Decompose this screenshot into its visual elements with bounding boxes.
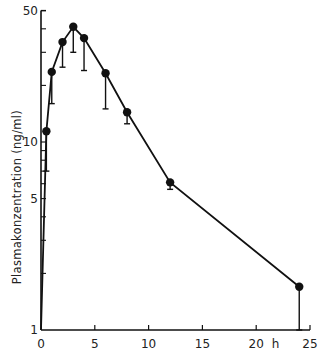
pharmacokinetic-chart: 0510152025h151050: [0, 0, 323, 356]
x-tick-label: 5: [91, 337, 99, 351]
x-tick-label: 0: [37, 337, 45, 351]
data-point-marker: [69, 23, 77, 31]
data-point-marker: [58, 38, 66, 46]
x-tick-label: 25: [302, 337, 317, 351]
data-points: [42, 23, 303, 291]
data-point-marker: [166, 178, 174, 186]
data-point-marker: [123, 108, 131, 116]
y-tick-label: 1: [30, 323, 38, 337]
x-tick-label: 10: [141, 337, 156, 351]
data-point-marker: [101, 69, 109, 77]
data-point-marker: [42, 127, 50, 135]
x-tick-label: 20: [249, 337, 264, 351]
y-tick-label: 5: [30, 192, 38, 206]
axes: [41, 11, 310, 330]
data-point-marker: [48, 68, 56, 76]
data-point-marker: [295, 282, 303, 290]
data-point-marker: [80, 34, 88, 42]
error-bars: [43, 27, 302, 330]
tick-labels: 0510152025h151050: [23, 4, 318, 351]
y-tick-label: 10: [23, 135, 38, 149]
x-unit-label: h: [272, 337, 280, 351]
y-tick-label: 50: [23, 4, 38, 18]
x-tick-label: 15: [195, 337, 210, 351]
